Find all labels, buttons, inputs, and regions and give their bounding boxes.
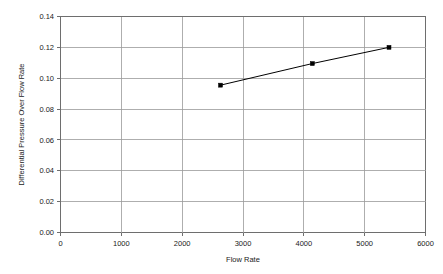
data-point-marker: [310, 62, 314, 66]
y-axis-title: Differential Pressure Over Flow Rate: [17, 64, 26, 186]
x-tick-label: 2000: [174, 239, 191, 248]
x-tick-label: 3000: [235, 239, 252, 248]
x-tick-label: 6000: [417, 239, 434, 248]
chart-container: 0.000.020.040.060.080.100.120.14 0100020…: [0, 0, 443, 274]
x-tick-label: 1000: [113, 239, 130, 248]
x-axis-title: Flow Rate: [226, 255, 260, 264]
x-tick-label: 4000: [295, 239, 312, 248]
line-chart: 0.000.020.040.060.080.100.120.14 0100020…: [0, 0, 443, 274]
x-tick-label: 5000: [356, 239, 373, 248]
y-tick-label: 0.00: [39, 228, 54, 237]
y-tick-label: 0.12: [39, 43, 54, 52]
y-tick-label: 0.02: [39, 197, 54, 206]
x-tick-label: 0: [58, 239, 62, 248]
y-tick-label: 0.08: [39, 105, 54, 114]
y-tick-label: 0.06: [39, 136, 54, 145]
y-tick-label: 0.04: [39, 166, 54, 175]
y-tick-label: 0.14: [39, 12, 54, 21]
data-point-marker: [218, 83, 222, 87]
data-point-marker: [387, 45, 391, 49]
y-tick-label: 0.10: [39, 74, 54, 83]
